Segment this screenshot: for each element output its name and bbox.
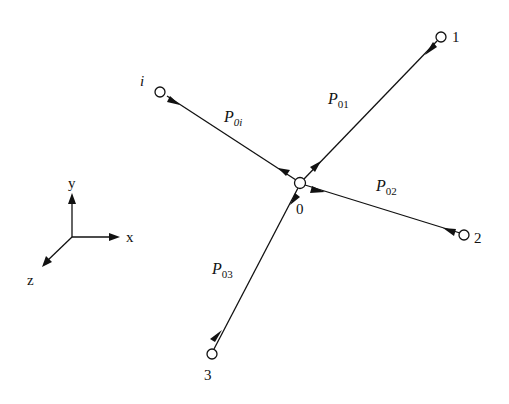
edge-label-03: P03 bbox=[211, 260, 233, 280]
arrow-icon bbox=[310, 186, 325, 193]
arrowheads bbox=[167, 42, 456, 342]
coordinate-axes bbox=[46, 200, 112, 262]
node-label-2: 2 bbox=[474, 230, 482, 246]
node-1 bbox=[436, 32, 446, 42]
node-label-i: i bbox=[140, 73, 144, 89]
edge-label-02: P02 bbox=[375, 177, 397, 197]
edge-label-0i: P0i bbox=[223, 108, 242, 128]
y-axis-arrow-icon bbox=[68, 193, 76, 204]
axis-label-y: y bbox=[68, 175, 76, 191]
node-label-3: 3 bbox=[204, 367, 212, 383]
axis-label-x: x bbox=[126, 229, 134, 245]
axis-label-z: z bbox=[27, 272, 34, 288]
node-label-0: 0 bbox=[296, 201, 304, 217]
edge-label-01: P01 bbox=[327, 90, 349, 110]
arrow-icon bbox=[443, 228, 456, 236]
node-2 bbox=[459, 230, 469, 240]
node-0 bbox=[295, 178, 306, 189]
arrow-icon bbox=[425, 42, 437, 55]
node-label-1: 1 bbox=[452, 29, 460, 45]
node-3 bbox=[207, 349, 217, 359]
x-axis-arrow-icon bbox=[109, 233, 120, 241]
force-diagram: 0 1 2 3 i P01 P02 P03 P0i y x z bbox=[0, 0, 509, 404]
edge-0-1 bbox=[304, 41, 437, 179]
node-i bbox=[155, 87, 165, 97]
